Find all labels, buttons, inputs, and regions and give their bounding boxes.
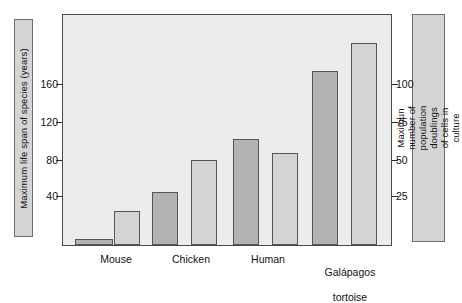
category-label-human: Human (232, 253, 304, 266)
bar-human-lifespan (233, 139, 259, 245)
bar-galapagos-doublings (351, 43, 377, 245)
left-tick-labels: 160 120 80 40 (34, 0, 58, 292)
category-label-galapagos-line1: Galápagos (325, 266, 376, 278)
right-tickmark-50 (392, 160, 398, 161)
right-tick-labels: 100 75 50 25 (396, 0, 420, 292)
bar-chicken-doublings (191, 160, 217, 245)
right-tickmark-100 (392, 84, 398, 85)
bar-mouse-lifespan (75, 239, 113, 245)
category-label-galapagos-line2: tortoise (333, 291, 367, 303)
right-tickmark-25 (392, 196, 398, 197)
left-axis-title-text: Maximum life span of species (years) (18, 48, 29, 208)
left-axis-title: Maximum life span of species (years) (14, 19, 33, 237)
bar-human-doublings (272, 153, 298, 245)
right-tick-100: 100 (396, 78, 414, 90)
right-axis-title-line2: of cells in culture (440, 108, 462, 149)
category-label-chicken: Chicken (155, 253, 227, 266)
bar-mouse-doublings (114, 211, 140, 245)
category-label-mouse: Mouse (80, 253, 152, 266)
category-label-galapagos: Galápagos tortoise (310, 253, 390, 303)
plot-area (62, 14, 392, 246)
right-tickmark-75 (392, 122, 398, 123)
bar-galapagos-lifespan (312, 71, 338, 245)
bar-chicken-lifespan (152, 192, 178, 245)
